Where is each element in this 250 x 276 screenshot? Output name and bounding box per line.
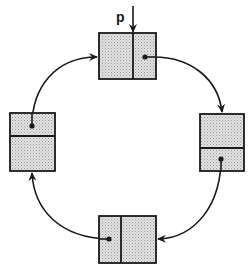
link-top-to-right — [154, 57, 222, 112]
node-top — [99, 33, 156, 79]
linked-list-diagram: p — [0, 0, 250, 276]
link-bottom-to-left — [32, 173, 109, 239]
links — [32, 57, 222, 239]
pointer-label: p — [116, 9, 125, 25]
node-right — [200, 114, 244, 171]
head-pointer: p — [116, 6, 133, 32]
